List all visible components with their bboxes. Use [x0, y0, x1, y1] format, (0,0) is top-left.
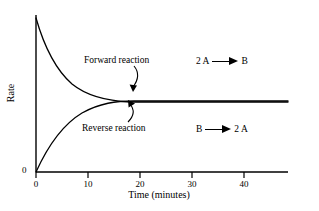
reverse-reaction-label: Reverse reaction	[82, 124, 146, 134]
forward-reaction-label: Forward reaction	[84, 56, 149, 66]
x-axis-title: Time (minutes)	[128, 190, 190, 200]
forward-reactant-text: 2 A	[196, 56, 209, 66]
right-arrow-icon	[205, 125, 231, 134]
reverse-product-text: 2 A	[234, 124, 247, 134]
forward-reaction-equation: 2 A B	[196, 56, 248, 66]
x-tick-label-10: 10	[84, 180, 93, 189]
y-axis-zero-label: 0	[22, 166, 27, 175]
x-axis-ticks	[36, 172, 244, 178]
reverse-reaction-equation: B 2 A	[196, 124, 248, 134]
x-tick-label-0: 0	[34, 180, 39, 189]
reverse-reaction-curve	[36, 101, 288, 172]
reverse-reactant-text: B	[196, 124, 202, 134]
chart-plot-area	[0, 0, 319, 211]
x-tick-label-20: 20	[136, 180, 145, 189]
x-tick-label-30: 30	[188, 180, 197, 189]
x-tick-label-40: 40	[240, 180, 249, 189]
forward-product-text: B	[241, 56, 247, 66]
reverse-leader-arrow	[128, 100, 135, 122]
forward-reaction-curve	[36, 18, 288, 102]
y-axis-title: Rate	[6, 84, 16, 102]
forward-leader-arrow	[130, 66, 138, 92]
reaction-rate-chart: 0 Rate 0 10 20 30 40 Time (minutes) Forw…	[0, 0, 319, 211]
right-arrow-icon	[212, 57, 238, 66]
